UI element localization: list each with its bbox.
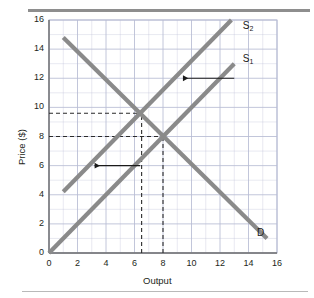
x-tick-16: 16 [266,259,288,268]
y-tick-0: 0 [22,248,44,257]
y-tick-14: 14 [22,44,44,53]
x-axis-title: Output [143,275,172,286]
x-tick-2: 2 [67,259,89,268]
y-axis-title: Price ($) [16,129,27,165]
x-tick-12: 12 [209,259,231,268]
chart-canvas [0,0,314,298]
x-tick-8: 8 [152,259,174,268]
curve-label-demand: D [257,227,264,238]
x-tick-6: 6 [124,259,146,268]
y-tick-10: 10 [22,102,44,111]
curve-label-supply-1: S1 [243,53,254,64]
x-tick-4: 4 [95,259,117,268]
y-tick-2: 2 [22,219,44,228]
curve-label-supply-2: S2 [243,20,254,31]
x-tick-14: 14 [238,259,260,268]
supply-2-subscript: 2 [249,25,253,32]
x-tick-0: 0 [38,259,60,268]
y-tick-12: 12 [22,73,44,82]
x-tick-10: 10 [181,259,203,268]
supply-demand-figure: 0246810121416 0246810121416 Price ($) Ou… [0,0,314,298]
y-tick-4: 4 [22,190,44,199]
y-tick-16: 16 [22,15,44,24]
supply-1-subscript: 1 [249,58,253,65]
